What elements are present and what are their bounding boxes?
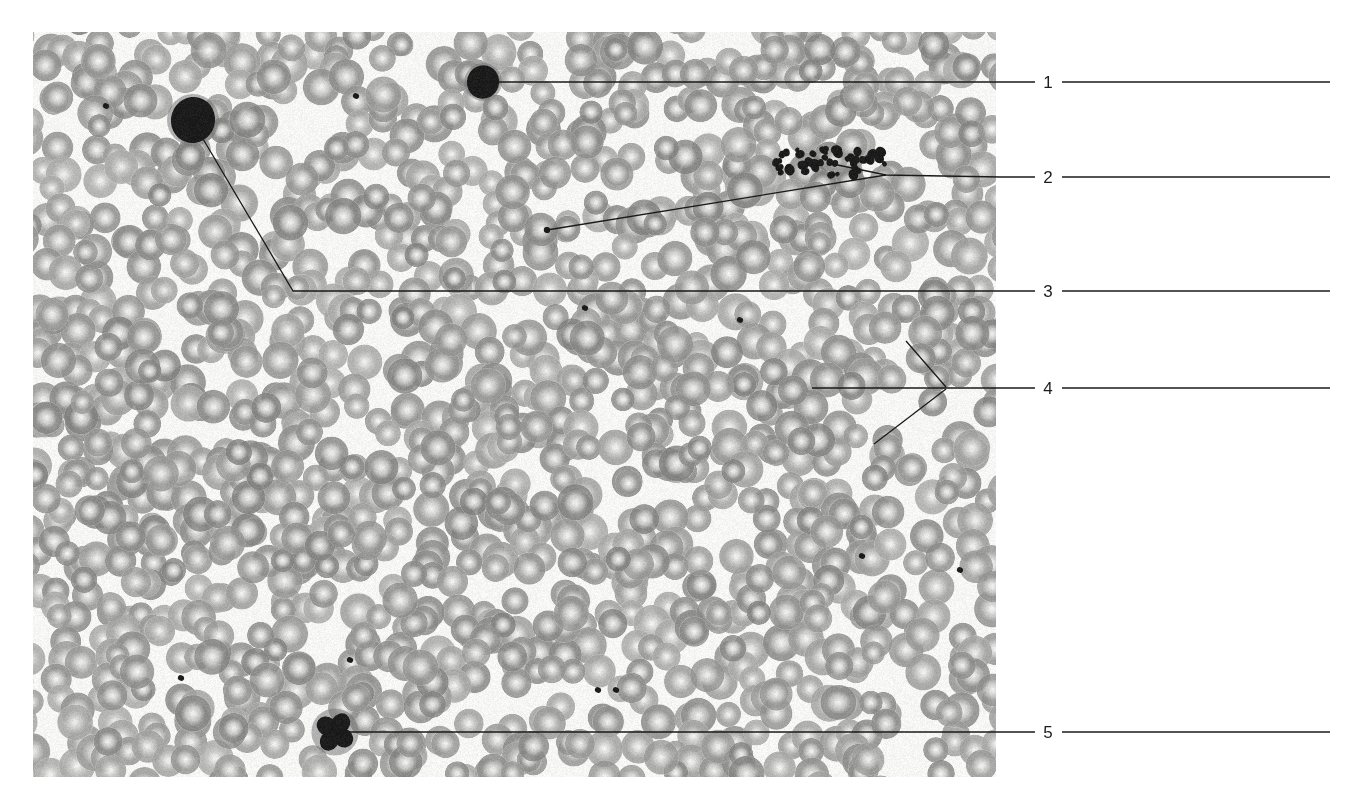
footer-text-strip: a b c d e f g h i j k l m n o p q r s t … (0, 780, 1365, 802)
label-number-5: 5 (1038, 724, 1058, 741)
header-text-strip: a b c d e f g h i j k l m n o p q r s t … (0, 0, 1365, 22)
micrograph-canvas (33, 32, 996, 777)
label-number-4: 4 (1038, 380, 1058, 397)
blood-smear-micrograph (33, 32, 996, 777)
label-number-3: 3 (1038, 283, 1058, 300)
label-number-1: 1 (1038, 74, 1058, 91)
header-text-fragment: a b c d e f g h i j k l m n o p q r s t … (86, 0, 365, 6)
footer-text-fragment: a b c d e f g h i j k l m n o p q r s t … (40, 780, 297, 784)
label-number-2: 2 (1038, 169, 1058, 186)
worksheet-page: a b c d e f g h i j k l m n o p q r s t … (0, 0, 1365, 802)
